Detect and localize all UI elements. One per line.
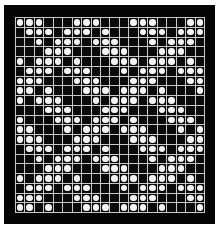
board-cell[interactable] — [129, 96, 137, 105]
board-cell[interactable] — [158, 28, 166, 37]
board-cell[interactable] — [186, 28, 194, 37]
board-cell[interactable] — [54, 28, 62, 37]
board-cell[interactable] — [35, 174, 43, 183]
board-cell[interactable] — [120, 125, 128, 134]
board-cell[interactable] — [82, 28, 90, 37]
board-cell[interactable] — [44, 135, 52, 144]
board-cell[interactable] — [110, 96, 118, 105]
board-cell[interactable] — [120, 164, 128, 173]
board-cell[interactable] — [158, 86, 166, 95]
board-cell[interactable] — [63, 194, 71, 203]
board-cell[interactable] — [196, 164, 204, 173]
board-cell[interactable] — [101, 77, 109, 86]
board-cell[interactable] — [54, 184, 62, 193]
board-cell[interactable] — [186, 203, 194, 212]
board-cell[interactable] — [92, 145, 100, 154]
board-cell[interactable] — [92, 184, 100, 193]
board-cell[interactable] — [82, 86, 90, 95]
board-cell[interactable] — [129, 116, 137, 125]
board-cell[interactable] — [16, 125, 24, 134]
board-cell[interactable] — [35, 96, 43, 105]
board-cell[interactable] — [92, 106, 100, 115]
board-cell[interactable] — [177, 18, 185, 27]
board-cell[interactable] — [54, 125, 62, 134]
board-cell[interactable] — [120, 86, 128, 95]
board-cell[interactable] — [196, 67, 204, 76]
board-cell[interactable] — [82, 174, 90, 183]
board-cell[interactable] — [167, 18, 175, 27]
board-cell[interactable] — [101, 47, 109, 56]
board-cell[interactable] — [25, 96, 33, 105]
board-cell[interactable] — [16, 174, 24, 183]
board-cell[interactable] — [16, 47, 24, 56]
board-cell[interactable] — [110, 67, 118, 76]
board-cell[interactable] — [139, 164, 147, 173]
board-cell[interactable] — [16, 194, 24, 203]
board-cell[interactable] — [63, 106, 71, 115]
board-cell[interactable] — [139, 28, 147, 37]
board-cell[interactable] — [148, 194, 156, 203]
board-cell[interactable] — [16, 18, 24, 27]
board-cell[interactable] — [120, 194, 128, 203]
board-cell[interactable] — [129, 184, 137, 193]
board-cell[interactable] — [148, 116, 156, 125]
board-cell[interactable] — [158, 164, 166, 173]
board-cell[interactable] — [44, 86, 52, 95]
board-cell[interactable] — [196, 203, 204, 212]
board-cell[interactable] — [16, 38, 24, 47]
board-cell[interactable] — [186, 125, 194, 134]
board-cell[interactable] — [196, 77, 204, 86]
board-cell[interactable] — [54, 155, 62, 164]
board-cell[interactable] — [139, 194, 147, 203]
board-cell[interactable] — [196, 47, 204, 56]
board-cell[interactable] — [73, 203, 81, 212]
board-cell[interactable] — [120, 57, 128, 66]
board-cell[interactable] — [35, 155, 43, 164]
board-cell[interactable] — [139, 86, 147, 95]
board-cell[interactable] — [129, 135, 137, 144]
board-cell[interactable] — [73, 164, 81, 173]
board-cell[interactable] — [82, 203, 90, 212]
board-cell[interactable] — [54, 77, 62, 86]
board-cell[interactable] — [110, 47, 118, 56]
board-cell[interactable] — [73, 28, 81, 37]
board-cell[interactable] — [139, 184, 147, 193]
board-cell[interactable] — [63, 203, 71, 212]
board-cell[interactable] — [54, 174, 62, 183]
board-cell[interactable] — [120, 18, 128, 27]
board-cell[interactable] — [120, 67, 128, 76]
board-cell[interactable] — [101, 96, 109, 105]
board-cell[interactable] — [158, 96, 166, 105]
board-cell[interactable] — [167, 125, 175, 134]
board-cell[interactable] — [92, 155, 100, 164]
board-cell[interactable] — [73, 57, 81, 66]
board-cell[interactable] — [110, 125, 118, 134]
board-cell[interactable] — [148, 77, 156, 86]
board-cell[interactable] — [129, 155, 137, 164]
board-cell[interactable] — [167, 145, 175, 154]
board-cell[interactable] — [35, 38, 43, 47]
board-cell[interactable] — [139, 96, 147, 105]
board-cell[interactable] — [167, 155, 175, 164]
board-cell[interactable] — [25, 203, 33, 212]
board-cell[interactable] — [92, 194, 100, 203]
board-cell[interactable] — [82, 67, 90, 76]
board-cell[interactable] — [63, 38, 71, 47]
board-cell[interactable] — [73, 96, 81, 105]
board-cell[interactable] — [177, 38, 185, 47]
board-cell[interactable] — [129, 18, 137, 27]
board-cell[interactable] — [73, 145, 81, 154]
board-cell[interactable] — [101, 135, 109, 144]
board-cell[interactable] — [158, 57, 166, 66]
board-cell[interactable] — [110, 57, 118, 66]
board-cell[interactable] — [25, 194, 33, 203]
board-cell[interactable] — [129, 106, 137, 115]
board-cell[interactable] — [120, 38, 128, 47]
board-cell[interactable] — [54, 38, 62, 47]
board-cell[interactable] — [44, 174, 52, 183]
board-cell[interactable] — [35, 116, 43, 125]
board-cell[interactable] — [177, 164, 185, 173]
board-cell[interactable] — [186, 106, 194, 115]
board-cell[interactable] — [44, 106, 52, 115]
board-cell[interactable] — [120, 155, 128, 164]
